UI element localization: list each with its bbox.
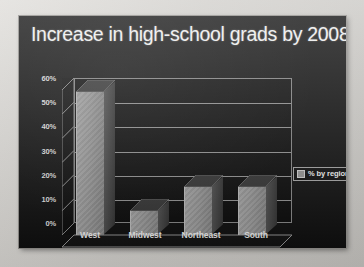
xtick-south: South — [229, 230, 283, 240]
ytick-0: 0% — [30, 219, 56, 228]
xtick-northeast: Northeast — [171, 230, 231, 240]
ytick-30: 30% — [30, 147, 56, 156]
ytick-10: 10% — [30, 195, 56, 204]
chart-legend[interactable]: % by region — [293, 167, 346, 181]
bar-west-side — [103, 82, 115, 235]
ytick-50: 50% — [30, 98, 56, 107]
slide-title: Increase in high-school grads by 2008 — [31, 23, 336, 46]
legend-swatch-icon — [297, 170, 305, 178]
bar-south[interactable] — [238, 187, 265, 235]
bar-west[interactable] — [76, 92, 103, 235]
bar-south-face — [238, 187, 266, 235]
bar-west-face — [76, 92, 104, 235]
presentation-slide: Increase in high-school grads by 2008 — [19, 16, 346, 248]
bar-northeast[interactable] — [184, 187, 211, 235]
photo-background: Increase in high-school grads by 2008 — [0, 0, 364, 267]
bar-chart: 60% 50% 40% 30% 20% 10% 0% — [28, 58, 340, 244]
xtick-west: West — [64, 230, 116, 240]
xtick-midwest: Midwest — [116, 230, 174, 240]
ytick-60: 60% — [30, 74, 56, 83]
legend-label: % by region — [308, 169, 346, 178]
ytick-20: 20% — [30, 171, 56, 180]
bar-northeast-face — [184, 187, 212, 235]
ytick-40: 40% — [30, 122, 56, 131]
